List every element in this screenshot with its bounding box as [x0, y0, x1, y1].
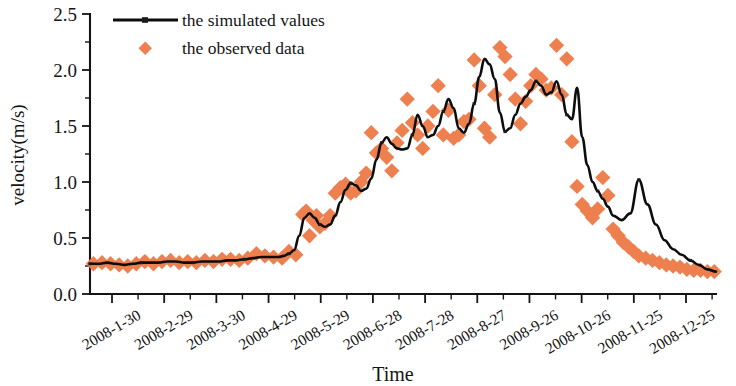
simulated-value-marker — [140, 261, 143, 264]
simulated-value-marker — [534, 80, 537, 83]
simulated-value-marker — [380, 141, 383, 144]
y-axis-title: velocity(m/s) — [7, 104, 29, 205]
simulated-value-marker — [503, 130, 506, 133]
y-tick-label: 2.5 — [53, 4, 77, 25]
simulated-value-marker — [442, 110, 445, 113]
y-tick-label: 1.0 — [53, 172, 77, 193]
y-tick-label: 1.5 — [53, 116, 77, 137]
y-tick-label: 0.5 — [53, 228, 77, 249]
simulated-value-marker — [411, 133, 414, 136]
simulated-value-marker — [689, 259, 692, 262]
y-tick-label: 2.0 — [53, 60, 77, 81]
simulated-value-marker — [88, 262, 91, 265]
x-axis-title-label: Time — [372, 363, 414, 385]
simulated-value-marker — [473, 102, 476, 105]
chart-figure: velocity(m/s) 0.00.51.01.52.02.5 2008-1-… — [0, 0, 736, 386]
simulated-value-marker — [191, 261, 194, 264]
simulated-value-marker — [596, 189, 599, 192]
simulated-value-marker — [349, 182, 352, 185]
velocity-time-chart: velocity(m/s) 0.00.51.01.52.02.5 2008-1-… — [0, 0, 736, 386]
simulated-value-marker — [287, 252, 290, 255]
simulated-value-marker — [243, 258, 246, 261]
legend-label-simulated: the simulated values — [182, 10, 325, 30]
simulated-value-marker — [318, 223, 321, 226]
y-axis-title-label: velocity(m/s) — [7, 104, 29, 205]
legend-label-observed: the observed data — [182, 38, 305, 58]
y-tick-label: 0.0 — [53, 284, 77, 305]
legend-line-marker — [142, 17, 148, 23]
simulated-value-marker — [565, 113, 568, 116]
simulated-value-marker — [637, 178, 640, 181]
